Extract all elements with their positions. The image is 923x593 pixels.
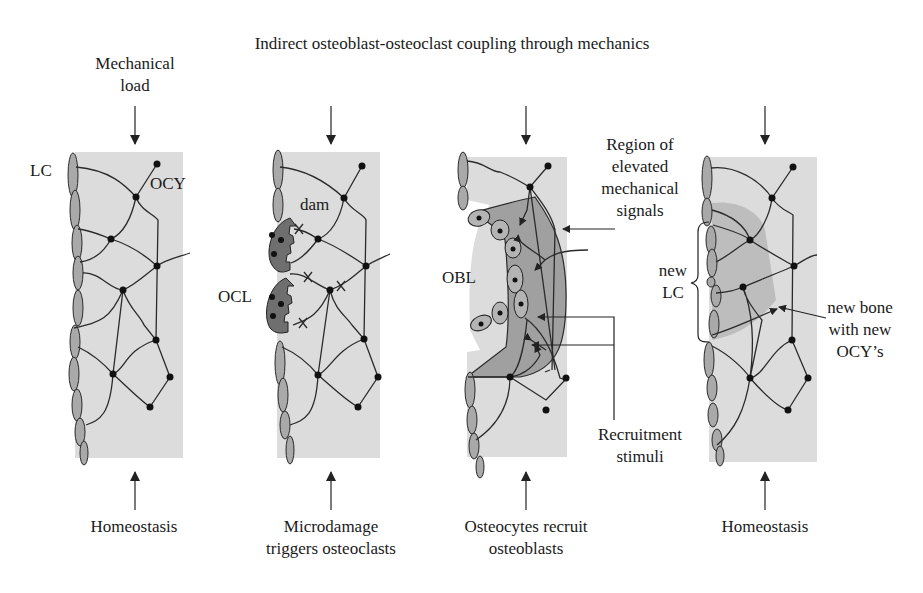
- region-of-elevated-signals-callout: Region of elevated mechanical signals: [563, 135, 679, 229]
- caption-homeostasis-2: Homeostasis: [722, 517, 809, 536]
- svg-text:signals: signals: [616, 201, 663, 220]
- svg-text:Recruitment: Recruitment: [598, 425, 682, 444]
- svg-text:stimuli: stimuli: [616, 447, 664, 466]
- caption-homeostasis-1: Homeostasis: [91, 517, 178, 536]
- diagram-title: Indirect osteoblast-osteoclast coupling …: [255, 34, 650, 53]
- svg-text:OCY’s: OCY’s: [836, 342, 883, 361]
- panel-microdamage: dam OCL Microdamage triggers osteoclasts: [218, 106, 396, 558]
- svg-text:Region of: Region of: [606, 135, 674, 154]
- new-lc-label-1: new: [659, 261, 688, 280]
- mechanical-load-label-2: load: [120, 76, 150, 95]
- dam-label: dam: [300, 195, 329, 214]
- coupling-diagram: Indirect osteoblast-osteoclast coupling …: [0, 0, 923, 593]
- svg-text:with new: with new: [829, 320, 893, 339]
- new-lc-label-2: LC: [662, 283, 684, 302]
- ocl-label: OCL: [218, 287, 252, 306]
- lc-label: LC: [30, 161, 52, 180]
- caption-microdamage-1: Microdamage: [284, 517, 378, 536]
- bone-matrix: [75, 152, 183, 458]
- obl-label: OBL: [442, 268, 476, 287]
- svg-text:mechanical: mechanical: [601, 179, 679, 198]
- panel-homeostasis-1: LC OCY Homeostasis: [30, 106, 190, 536]
- caption-microdamage-2: triggers osteoclasts: [266, 539, 396, 558]
- panel-osteocytes-recruit: OBL Region of elevated mechanical signal…: [442, 106, 682, 558]
- svg-text:elevated: elevated: [612, 157, 669, 176]
- mechanical-load-label-1: Mechanical: [95, 54, 175, 73]
- caption-recruit-2: osteoblasts: [489, 539, 564, 558]
- ocy-label: OCY: [150, 174, 186, 193]
- panel-homeostasis-2: new LC new bone with new OCY’s Homeostas…: [659, 106, 893, 536]
- svg-text:new bone: new bone: [827, 298, 893, 317]
- caption-recruit-1: Osteocytes recruit: [464, 517, 587, 536]
